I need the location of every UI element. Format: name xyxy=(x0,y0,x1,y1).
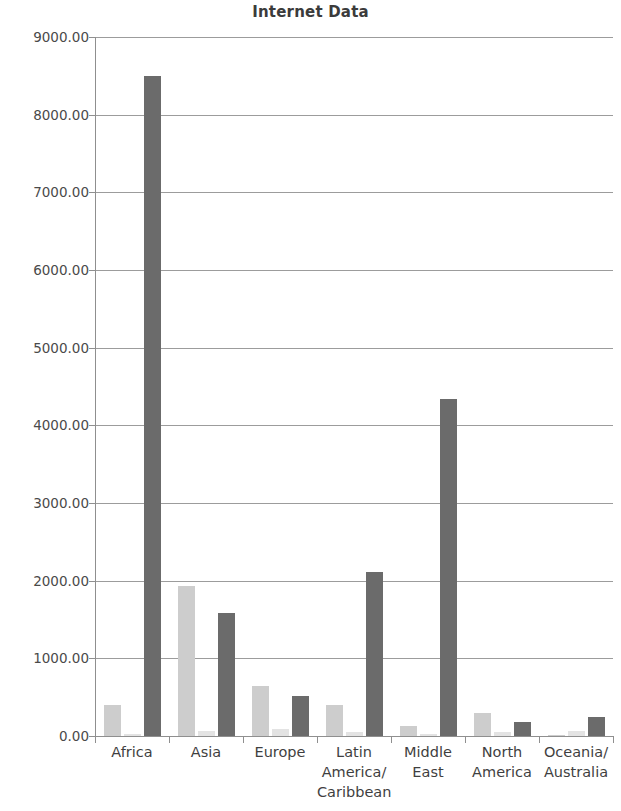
y-axis-tick-label: 7000.00 xyxy=(5,184,89,200)
category-label-line: Caribbean xyxy=(317,782,391,802)
bar-group xyxy=(465,37,539,736)
bar xyxy=(440,399,457,736)
axis-edge-tick xyxy=(95,736,96,743)
plot-area xyxy=(95,37,613,736)
x-axis-category-label: Asia xyxy=(169,742,243,762)
category-label-line: Middle xyxy=(391,742,465,762)
bar xyxy=(104,705,121,736)
category-label-line: America/ xyxy=(317,762,391,782)
bar-group xyxy=(391,37,465,736)
category-label-line: Australia xyxy=(539,762,613,782)
category-label-line: North xyxy=(465,742,539,762)
x-axis-category-label: LatinAmerica/Caribbean xyxy=(317,742,391,802)
bar xyxy=(514,722,531,736)
x-axis-category-label: Europe xyxy=(243,742,317,762)
y-axis-tick-label: 2000.00 xyxy=(5,573,89,589)
category-label-line: America xyxy=(465,762,539,782)
bar-group xyxy=(169,37,243,736)
internet-data-bar-chart: Internet Data 9000.008000.007000.006000.… xyxy=(0,0,621,811)
bar xyxy=(272,729,289,736)
category-label-line: Europe xyxy=(243,742,317,762)
category-label-line: Africa xyxy=(95,742,169,762)
bar xyxy=(178,586,195,736)
bar xyxy=(400,726,417,736)
bar xyxy=(366,572,383,736)
bar xyxy=(474,713,491,736)
y-axis-labels: 9000.008000.007000.006000.005000.004000.… xyxy=(0,0,89,811)
y-axis-tick-label: 3000.00 xyxy=(5,495,89,511)
category-label-line: Oceania/ xyxy=(539,742,613,762)
bar xyxy=(326,705,343,736)
bar xyxy=(588,717,605,736)
axis-edge-tick xyxy=(613,736,614,743)
bar xyxy=(144,76,161,736)
category-label-line: Asia xyxy=(169,742,243,762)
bar-group xyxy=(317,37,391,736)
y-axis-line xyxy=(95,37,96,737)
bar xyxy=(252,686,269,736)
category-label-line: East xyxy=(391,762,465,782)
bar-group xyxy=(539,37,613,736)
y-axis-tick-label: 8000.00 xyxy=(5,107,89,123)
y-axis-tick-label: 4000.00 xyxy=(5,417,89,433)
y-axis-tick-label: 5000.00 xyxy=(5,340,89,356)
chart-title: Internet Data xyxy=(0,3,621,21)
y-axis-tick-label: 9000.00 xyxy=(5,29,89,45)
x-axis-category-label: Africa xyxy=(95,742,169,762)
y-axis-tick-label: 0.00 xyxy=(5,728,89,744)
category-label-line: Latin xyxy=(317,742,391,762)
bar xyxy=(292,696,309,736)
x-axis-category-label: MiddleEast xyxy=(391,742,465,782)
x-axis-category-label: Oceania/Australia xyxy=(539,742,613,782)
bar xyxy=(218,613,235,736)
y-axis-tick-label: 1000.00 xyxy=(5,650,89,666)
bar-group xyxy=(243,37,317,736)
x-axis-line xyxy=(95,736,613,737)
y-axis-tick-label: 6000.00 xyxy=(5,262,89,278)
x-axis-category-label: NorthAmerica xyxy=(465,742,539,782)
bar-group xyxy=(95,37,169,736)
